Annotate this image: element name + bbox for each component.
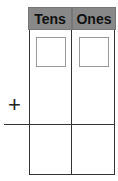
header-ones: Ones bbox=[72, 7, 116, 30]
right-border bbox=[114, 30, 115, 175]
left-border bbox=[29, 30, 30, 175]
plus-sign: + bbox=[8, 94, 21, 116]
sum-line bbox=[4, 124, 115, 125]
header-tens: Tens bbox=[28, 7, 72, 30]
bottom-border bbox=[29, 174, 115, 175]
ones-carry-box[interactable] bbox=[79, 37, 109, 67]
middle-divider bbox=[71, 30, 72, 175]
tens-carry-box[interactable] bbox=[36, 37, 66, 67]
